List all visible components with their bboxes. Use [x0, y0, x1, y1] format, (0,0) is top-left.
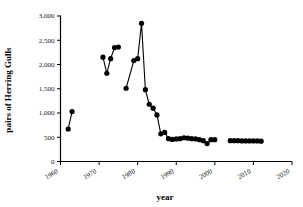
y-axis-group: 05001,0001,5002,0002,5003,000	[39, 12, 61, 166]
data-point-marker	[66, 126, 71, 131]
y-tick-label: 1,500	[39, 85, 55, 93]
data-point-marker	[135, 56, 140, 61]
x-tick-label: 1980	[121, 167, 138, 181]
y-axis-ticks: 05001,0001,5002,0002,5003,000	[39, 12, 61, 166]
y-tick-label: 3,000	[39, 12, 55, 20]
y-tick-label: 2,000	[39, 61, 55, 69]
x-tick-label: 2000	[198, 167, 215, 181]
data-point-marker	[139, 21, 144, 26]
chart-svg: 05001,0001,5002,0002,5003,000 1960197019…	[0, 0, 303, 207]
herring-gulls-chart: 05001,0001,5002,0002,5003,000 1960197019…	[0, 0, 303, 207]
data-point-marker	[212, 137, 217, 142]
data-point-marker	[147, 102, 152, 107]
x-tick-label: 2020	[275, 167, 292, 181]
data-point-marker	[154, 112, 159, 117]
x-tick-label: 1970	[82, 167, 99, 181]
data-series-layer	[66, 21, 264, 146]
data-point-marker	[69, 109, 74, 114]
x-tick-label: 2010	[236, 167, 253, 181]
x-axis-group: 1960197019801990200020102020	[43, 162, 292, 182]
data-point-marker	[162, 130, 167, 135]
series-line-segment	[126, 23, 215, 143]
data-point-marker	[123, 86, 128, 91]
data-point-marker	[108, 56, 113, 61]
x-axis-title: year	[157, 192, 174, 202]
data-point-marker	[100, 55, 105, 60]
data-point-marker	[104, 71, 109, 76]
x-tick-label: 1990	[159, 167, 176, 181]
data-point-marker	[259, 139, 264, 144]
y-tick-label: 500	[44, 134, 55, 142]
data-point-marker	[151, 106, 156, 111]
y-tick-label: 2,500	[39, 37, 55, 45]
y-tick-label: 1,000	[39, 109, 55, 117]
x-tick-label: 1960	[43, 167, 60, 181]
y-tick-label: 0	[51, 158, 55, 166]
y-axis-title: pairs of Herring Gulls	[3, 47, 13, 133]
data-point-marker	[143, 87, 148, 92]
x-axis-ticks: 1960197019801990200020102020	[43, 162, 292, 182]
data-point-marker	[116, 44, 121, 49]
data-point-marker	[205, 141, 210, 146]
series-line-segment	[68, 112, 72, 129]
